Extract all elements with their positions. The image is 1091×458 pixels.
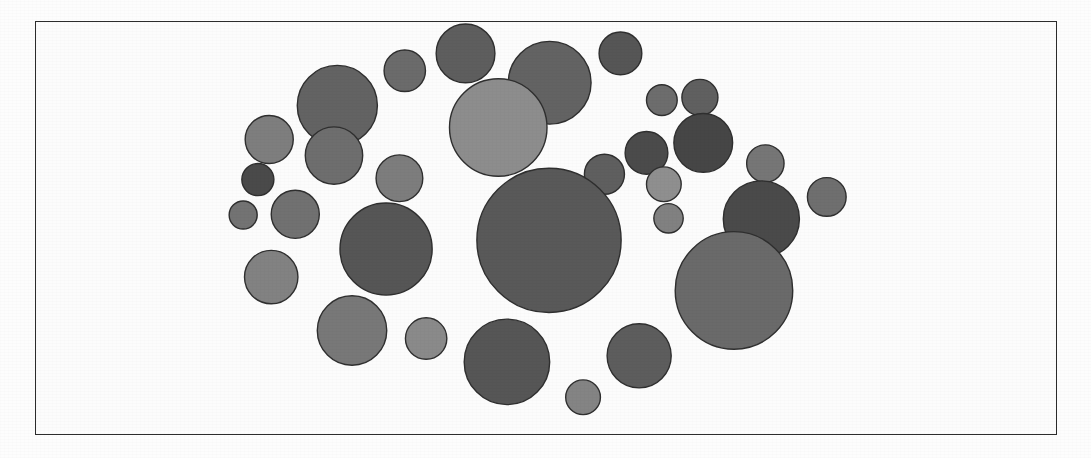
packed-circle bbox=[747, 145, 784, 182]
packed-circle bbox=[317, 296, 386, 365]
packed-circle bbox=[646, 85, 677, 116]
packed-circle bbox=[376, 155, 423, 202]
packed-circle bbox=[405, 318, 446, 359]
packed-circle bbox=[464, 319, 549, 404]
packed-circle bbox=[384, 50, 425, 91]
circle-packing-svg bbox=[36, 22, 1057, 435]
packed-circle bbox=[646, 167, 681, 202]
packed-circle bbox=[305, 127, 362, 184]
circles-group bbox=[229, 24, 846, 415]
packed-circle bbox=[245, 250, 298, 303]
packed-circle bbox=[599, 32, 642, 75]
plot-area bbox=[36, 22, 1056, 434]
packed-circle bbox=[242, 164, 274, 196]
packed-circle bbox=[654, 204, 683, 233]
packed-circle bbox=[682, 79, 718, 115]
packed-circle bbox=[807, 178, 846, 217]
packed-circle bbox=[675, 232, 793, 350]
packed-circle bbox=[229, 201, 257, 229]
packed-circle bbox=[436, 24, 495, 83]
figure-frame bbox=[35, 21, 1057, 435]
packed-circle bbox=[477, 168, 621, 312]
packed-circle bbox=[245, 115, 293, 163]
packed-circle bbox=[674, 113, 733, 172]
packed-circle bbox=[450, 79, 548, 177]
packed-circle bbox=[607, 324, 671, 388]
packed-circle bbox=[566, 380, 601, 415]
packed-circle bbox=[340, 203, 432, 295]
figure-root bbox=[0, 0, 1091, 458]
packed-circle bbox=[271, 190, 319, 238]
